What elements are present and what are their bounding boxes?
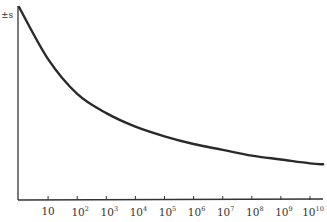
x-tick-label: 106 — [188, 205, 206, 218]
x-tick-label: 109 — [275, 205, 293, 218]
x-tick-label: 107 — [217, 205, 235, 218]
y-axis-label: ±s — [1, 10, 13, 20]
chart-canvas — [0, 0, 327, 222]
x-tick-label: 10 — [41, 205, 54, 217]
x-tick-label: 104 — [130, 205, 148, 218]
data-curve — [19, 7, 323, 164]
x-tick-label: 102 — [71, 205, 89, 218]
x-axis — [18, 199, 323, 200]
x-tick-label: 105 — [159, 205, 177, 218]
x-tick-label: 103 — [101, 205, 119, 218]
x-tick-label: 108 — [246, 205, 264, 218]
x-tick-label: 1010 — [302, 205, 324, 218]
